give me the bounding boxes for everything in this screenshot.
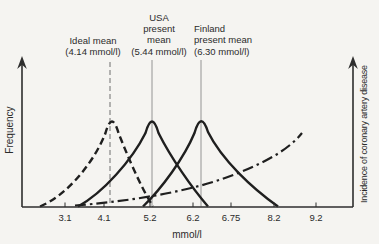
x-tick-label: 4.1 <box>97 212 110 223</box>
ideal-mean-annotation: Ideal mean (4.14 mmol/l) <box>65 35 120 57</box>
x-tick-label: 8.2 <box>267 212 280 223</box>
usa-distribution-curve <box>78 122 208 207</box>
usa-mean-annotation: USA present mean (5.44 mmol/l) <box>131 12 186 57</box>
usa-mean-label-line3: mean <box>147 34 171 45</box>
x-axis-label: mmol/l <box>172 229 201 240</box>
ideal-mean-value: (4.14 mmol/l) <box>65 46 120 57</box>
x-tick-label: 3.1 <box>58 212 71 223</box>
finland-mean-label-line2: present mean <box>194 34 252 45</box>
chart-svg: 3.1 4.1 5.2 6.2 6.75 8.2 9.2 mmol/l Freq… <box>0 0 379 244</box>
right-axis-label: Incidence of coronary artery disease <box>359 65 369 203</box>
usa-mean-label-line2: present <box>143 23 175 34</box>
x-tick-label: 6.75 <box>222 212 241 223</box>
figure-container: 3.1 4.1 5.2 6.2 6.75 8.2 9.2 mmol/l Freq… <box>0 0 379 244</box>
x-tick-label: 6.2 <box>186 212 199 223</box>
x-tick-label: 9.2 <box>309 212 322 223</box>
ideal-mean-label-line1: Ideal mean <box>69 35 116 46</box>
usa-mean-label-line1: USA <box>149 12 169 23</box>
left-axis-label: Frequency <box>4 106 15 153</box>
finland-mean-label-line1: Finland <box>194 23 225 34</box>
usa-mean-value: (5.44 mmol/l) <box>131 46 186 57</box>
x-tick-label: 5.2 <box>143 212 156 223</box>
finland-mean-value: (6.30 mmol/l) <box>194 46 249 57</box>
finland-mean-annotation: Finland present mean (6.30 mmol/l) <box>194 23 252 57</box>
